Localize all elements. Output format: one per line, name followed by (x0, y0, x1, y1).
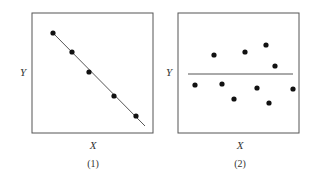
data-point (69, 49, 74, 54)
panel-2: Y X (2) (166, 13, 299, 170)
y-axis-label-1: Y (20, 66, 28, 78)
data-point (242, 49, 247, 54)
data-point (263, 42, 268, 47)
data-point (192, 82, 197, 87)
data-point (86, 69, 91, 74)
data-point (50, 30, 55, 35)
panel-caption-2: (2) (234, 158, 246, 170)
figure: Y X (1) Y X (2) (0, 0, 315, 178)
panel-caption-1: (1) (87, 158, 99, 170)
fit-line-1 (53, 33, 145, 126)
x-axis-label-2: X (236, 139, 245, 151)
x-axis-label-1: X (89, 139, 98, 151)
y-axis-label-2: Y (166, 66, 174, 78)
data-point (272, 63, 277, 68)
panel-1: Y X (1) (20, 13, 153, 170)
data-point (133, 113, 138, 118)
data-point (219, 81, 224, 86)
data-point (231, 96, 236, 101)
data-point (111, 93, 116, 98)
data-point (211, 52, 216, 57)
data-point (254, 85, 259, 90)
plot-frame-2 (178, 13, 299, 133)
data-point (290, 86, 295, 91)
data-point (266, 100, 271, 105)
